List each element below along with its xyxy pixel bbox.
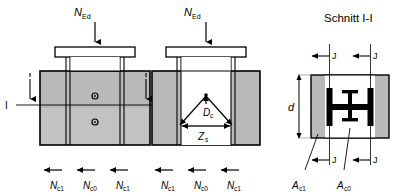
core-gap-white-mid	[182, 57, 231, 71]
area-label-ac0-main: A	[336, 180, 344, 191]
reaction-label-3-sub: c1	[123, 185, 130, 192]
core-gap-white	[71, 57, 120, 71]
reaction-label-mid-3-sub: c1	[234, 185, 241, 192]
load-label-ned-sub: Ed	[82, 13, 91, 20]
gap-top-arrow-2	[353, 53, 360, 59]
node-apex	[204, 93, 208, 97]
depth-label: d	[288, 101, 295, 113]
engineering-figure: N Ed I I	[0, 0, 404, 196]
panel-elevation-left: N Ed I I	[5, 6, 163, 192]
panel-elevation-middle: N Ed D c Z s N c1	[152, 6, 260, 192]
area-label-ac0-sub: c0	[344, 185, 351, 192]
reaction-label-mid-2-sub: c0	[201, 185, 208, 192]
load-label-ned-main: N	[74, 6, 82, 18]
gap-bottom-arrow-2	[353, 157, 360, 163]
gap-dimensions-top: J J	[312, 51, 378, 61]
tie-label-zs-main: Z	[197, 131, 205, 142]
dowel-center-upper	[94, 95, 96, 97]
gap-top-arrow-1	[312, 53, 319, 59]
base-plate	[55, 47, 135, 57]
stiffener-web	[348, 90, 352, 121]
gap-label-top-2: J	[373, 51, 378, 61]
leader-line-ac1	[305, 134, 318, 170]
cross-section-title: Schnitt I-I	[324, 12, 373, 24]
gap-label-bottom-1: J	[332, 155, 337, 165]
area-label-ac1-sub: c1	[299, 185, 306, 192]
panel-cross-section: Schnitt I-I d J	[288, 12, 389, 192]
gap-label-bottom-2: J	[373, 155, 378, 165]
gap-label-top-1: J	[332, 51, 337, 61]
reaction-label-2-sub: c0	[90, 185, 97, 192]
depth-dimension: d	[288, 74, 311, 139]
reaction-label-mid-1-sub: c1	[168, 185, 175, 192]
load-label-ned-main-mid: N	[184, 6, 192, 18]
reaction-label-1-sub: c1	[57, 185, 64, 192]
base-plate-mid	[166, 47, 246, 57]
stiffener-bottom	[342, 118, 358, 121]
figure-canvas: N Ed I I	[0, 0, 404, 196]
gap-bottom-arrow-1	[312, 157, 319, 163]
load-label-ned-sub-mid: Ed	[192, 13, 201, 20]
section-marker-left-label: I	[5, 100, 8, 111]
area-label-ac1-main: A	[291, 180, 299, 191]
dowel-center-lower	[94, 121, 96, 123]
concrete-lower-shade	[41, 108, 149, 144]
